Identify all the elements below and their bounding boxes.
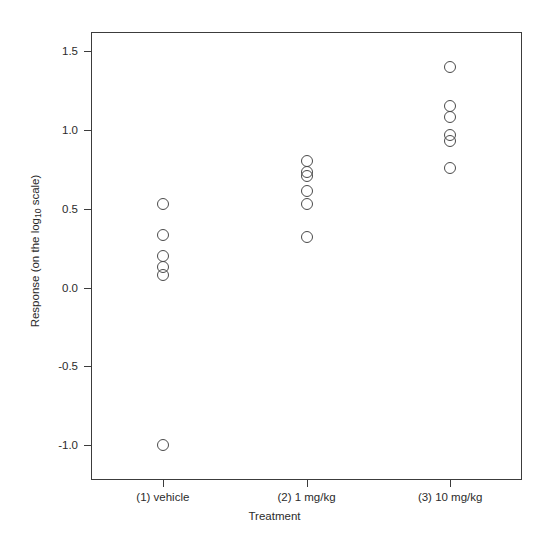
x-tick-mark [307,480,308,487]
scatter-plot-figure: 1.51.00.50.0-0.5-1.0 (1) vehicle(2) 1 mg… [0,0,549,533]
x-tick-mark [450,480,451,487]
x-axis-title: Treatment [0,510,549,522]
x-tick-mark [163,480,164,487]
y-tick-mark [84,209,91,210]
plot-frame [91,32,522,480]
y-axis-title-prefix: Response (on the log [29,218,41,327]
y-tick-mark [84,130,91,131]
y-tick-mark [84,366,91,367]
y-tick-label: -1.0 [0,445,78,457]
y-tick-mark [84,445,91,446]
y-tick-mark [84,51,91,52]
y-tick-label: 1.5 [0,51,78,63]
y-axis-title-subscript: 10 [33,209,43,218]
y-axis-title-suffix: scale) [29,175,41,209]
y-axis-title: Response (on the log10 scale) [29,111,41,391]
y-tick-mark [84,288,91,289]
